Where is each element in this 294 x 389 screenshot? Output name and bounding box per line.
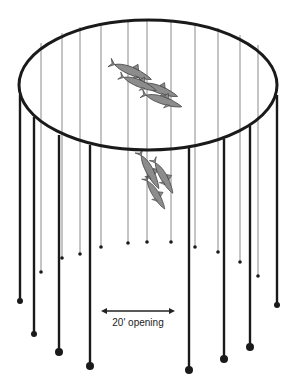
front-net-poles [17,95,280,374]
back-line [126,20,130,245]
opening-label: 20' opening [112,317,163,328]
front-pole [274,95,280,308]
front-pole [246,126,254,351]
weight-icon [246,343,254,351]
small-weight-icon [126,241,130,245]
arrow-right-icon [169,308,175,314]
front-pole [17,95,23,304]
weight-icon [274,302,280,308]
back-line [99,23,103,249]
small-weight-icon [193,245,197,249]
front-pole [86,145,94,370]
small-weight-icon [60,256,64,260]
front-pole [220,139,228,363]
small-weight-icon [238,260,242,264]
fish-school-top [107,54,184,113]
weight-icon [31,331,37,337]
weight-icon [55,348,63,356]
back-line [256,45,260,278]
opening-indicator: 20' opening [101,308,175,328]
weight-icon [17,298,23,304]
fish-schools [107,54,184,212]
weight-icon [86,362,94,370]
seine-net-diagram: 20' opening [0,0,294,389]
back-line [60,33,64,260]
weight-icon [220,355,228,363]
small-weight-icon [99,245,103,249]
small-weight-icon [256,274,260,278]
fish-school-middle [133,147,180,212]
front-pole [31,117,37,337]
back-line [145,20,149,244]
small-weight-icon [39,270,43,274]
back-line [238,35,242,264]
small-weight-icon [78,252,82,256]
back-line [39,43,43,274]
front-pole [185,148,193,374]
arrow-left-icon [101,308,107,314]
weight-icon [185,366,193,374]
back-line [193,23,197,249]
back-line [169,21,173,244]
small-weight-icon [145,240,149,244]
small-weight-icon [169,240,173,244]
small-weight-icon [216,250,220,254]
